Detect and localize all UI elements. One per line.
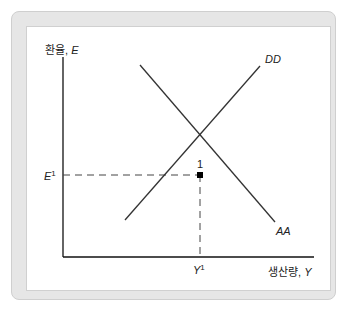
- aa-curve: [140, 65, 275, 222]
- dd-aa-diagram: 환율, E DD AA 1 E1 Y1 생산량, Y: [0, 0, 349, 311]
- y1-tick-label: Y1: [193, 263, 205, 276]
- dd-curve: [125, 66, 260, 220]
- point-label: 1: [197, 158, 203, 170]
- e1-tick-label: E1: [44, 169, 56, 182]
- x-axis-label: 생산량, Y: [268, 266, 312, 278]
- aa-label: AA: [275, 225, 291, 237]
- y-axis-label: 환율, E: [45, 44, 79, 56]
- dd-label: DD: [265, 53, 281, 65]
- equilibrium-point: [197, 172, 203, 178]
